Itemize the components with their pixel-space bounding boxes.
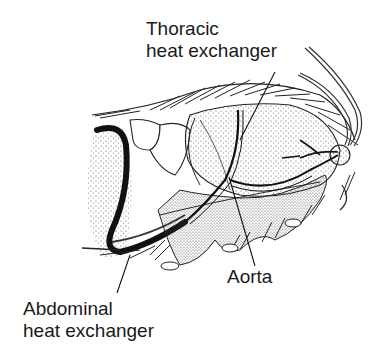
abdominal-label-line2: heat exchanger [23,320,154,342]
aorta-label: Aorta [227,266,272,288]
abdominal-heat-exchanger-label: Abdominal heat exchanger [23,298,154,342]
thoracic-label-line1: Thoracic [146,18,277,40]
head [330,145,350,165]
thoracic-label-line2: heat exchanger [146,40,277,62]
abdominal-label-line1: Abdominal [23,298,154,320]
aorta-label-text: Aorta [227,266,272,288]
abdominal-leader [117,255,130,293]
petiole [130,120,190,175]
thoracic-heat-exchanger-label: Thoracic heat exchanger [146,18,277,62]
